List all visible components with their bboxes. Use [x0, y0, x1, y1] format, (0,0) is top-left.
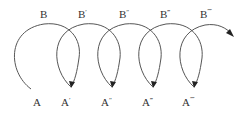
label-b-double-prime: B″ — [119, 8, 129, 20]
label-a: A — [33, 96, 41, 108]
loop-2-curve — [57, 24, 120, 87]
label-b-prime: B′ — [78, 8, 87, 20]
loop-3-curve — [98, 24, 161, 87]
arrowhead-a1-icon — [69, 81, 75, 88]
loop-4-curve — [139, 24, 202, 87]
label-b: B — [40, 8, 47, 20]
arrowhead-a4-icon — [192, 81, 198, 88]
label-a-triple-prime: A‴ — [142, 96, 153, 108]
label-a-quadruple-prime: A⁗ — [182, 96, 195, 108]
loop-1-curve — [14, 24, 79, 89]
label-a-prime: A′ — [61, 96, 71, 108]
label-a-double-prime: A″ — [101, 96, 112, 108]
final-arc-curve — [180, 25, 232, 87]
helix-loop-diagram: B B′ B″ B‴ B⁗ A A′ A″ A‴ A⁗ — [0, 0, 246, 115]
label-b-quadruple-prime: B⁗ — [200, 8, 212, 20]
arrowhead-a3-icon — [151, 81, 157, 88]
label-b-triple-prime: B‴ — [160, 8, 170, 20]
arrowhead-a2-icon — [110, 81, 116, 88]
